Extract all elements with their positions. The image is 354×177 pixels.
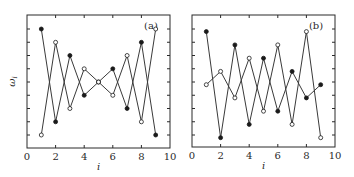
filled-marker [139, 40, 143, 44]
filled-marker [54, 120, 58, 124]
panel-a: 0246810iωi(a) [6, 15, 176, 172]
open-marker [82, 67, 86, 71]
open-marker [233, 96, 237, 100]
filled-marker [262, 56, 266, 60]
filled-marker [276, 109, 280, 113]
x-axis-label: i [97, 161, 100, 172]
x-tick-label: 0 [189, 150, 195, 161]
panel-b: 0246810i(b) [189, 15, 342, 171]
x-tick-label: 4 [246, 150, 252, 161]
x-tick-label: 0 [24, 151, 30, 162]
open-marker [247, 56, 251, 60]
open-marker [319, 136, 323, 140]
x-tick-label: 4 [81, 151, 87, 162]
x-tick-label: 8 [138, 151, 144, 162]
x-tick-label: 8 [303, 150, 309, 161]
filled-marker [290, 69, 294, 73]
open-marker [204, 83, 208, 87]
filled-marker [247, 122, 251, 126]
filled-marker [125, 107, 129, 111]
filled-marker [68, 54, 72, 58]
open-marker [276, 43, 280, 47]
x-tick-label: 6 [275, 150, 281, 161]
open-marker [262, 109, 266, 113]
filled-marker [304, 96, 308, 100]
open-marker [139, 120, 143, 124]
x-axis-label: i [262, 160, 265, 171]
filled-marker [82, 93, 86, 97]
open-marker [125, 54, 129, 58]
open-marker [111, 93, 115, 97]
filled-marker [319, 83, 323, 87]
filled-marker [154, 133, 158, 137]
filled-marker [39, 27, 43, 31]
x-tick-label: 2 [217, 150, 223, 161]
open-marker [97, 80, 101, 84]
open-marker [219, 69, 223, 73]
x-tick-label: 2 [52, 151, 58, 162]
y-axis-label: ωi [6, 76, 19, 86]
x-tick-label: 6 [110, 151, 116, 162]
figure: 0246810iωi(a) 0246810i(b) [0, 0, 354, 177]
panel-label: (b) [309, 20, 323, 31]
open-marker [39, 133, 43, 137]
open-marker [304, 30, 308, 34]
filled-marker [219, 136, 223, 140]
open-marker [68, 107, 72, 111]
x-tick-label: 10 [329, 150, 342, 161]
open-marker [54, 40, 58, 44]
open-marker [290, 122, 294, 126]
filled-marker [233, 43, 237, 47]
filled-marker [111, 67, 115, 71]
x-tick-label: 10 [164, 151, 177, 162]
open-marker [154, 27, 158, 31]
filled-marker [204, 30, 208, 34]
